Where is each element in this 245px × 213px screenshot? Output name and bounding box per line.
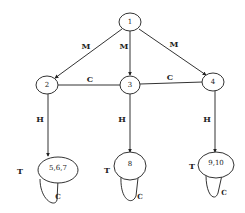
- node-5-6-7-label: 5,6,7: [49, 164, 67, 172]
- self-loop-8: [121, 177, 138, 201]
- edge-label-3-8: H: [118, 114, 126, 124]
- edge-3-4: [140, 82, 203, 84]
- edge-label-1-2: M: [82, 41, 91, 51]
- terminal-mark-910: T: [189, 161, 195, 171]
- node-8-label: 8: [128, 160, 132, 168]
- edge-label-4-910: H: [203, 114, 211, 124]
- edge-label-2-567: H: [36, 114, 44, 124]
- edge-1-2: [55, 29, 122, 78]
- edge-label-2-3: C: [87, 74, 93, 84]
- loop-label-910: C: [221, 188, 227, 197]
- terminal-mark-567: T: [17, 166, 23, 176]
- node-2-label: 2: [45, 81, 49, 89]
- node-9-10-label: 9,10: [208, 159, 224, 167]
- state-diagram: M M M C C H H H C C C 1 2 3 4 5,6,7 8 9,…: [0, 0, 245, 213]
- loop-label-8: C: [137, 192, 143, 201]
- edge-1-4: [139, 29, 206, 75]
- terminal-mark-8: T: [104, 165, 110, 175]
- node-4-label: 4: [211, 78, 216, 86]
- node-3-label: 3: [128, 81, 132, 89]
- edge-label-1-4: M: [170, 39, 179, 49]
- edge-label-1-3: M: [120, 41, 129, 51]
- loop-label-567: C: [55, 192, 61, 201]
- edge-label-3-4: C: [167, 72, 173, 82]
- node-1-label: 1: [128, 18, 132, 26]
